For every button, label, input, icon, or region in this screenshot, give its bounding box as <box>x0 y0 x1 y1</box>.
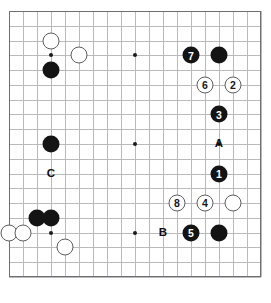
stone-white[interactable] <box>225 195 242 212</box>
stone-white[interactable] <box>15 224 32 241</box>
stone-move-number: 4 <box>198 196 213 211</box>
point-label-b[interactable]: B <box>159 227 167 239</box>
stone-move-number: 6 <box>198 77 213 92</box>
stone-white[interactable] <box>71 47 88 64</box>
stone-move-number: 8 <box>170 196 185 211</box>
stone-black-move-1[interactable]: 1 <box>211 165 228 182</box>
go-stones-layer: 76231845ABC <box>0 0 271 303</box>
stone-black[interactable] <box>211 224 228 241</box>
stone-white-move-8[interactable]: 8 <box>169 195 186 212</box>
stone-move-number: 5 <box>183 224 200 241</box>
stone-black[interactable] <box>43 62 60 79</box>
stone-white-move-2[interactable]: 2 <box>225 76 242 93</box>
point-label-c[interactable]: C <box>47 168 55 180</box>
stone-white-move-4[interactable]: 4 <box>197 195 214 212</box>
stone-black[interactable] <box>211 47 228 64</box>
stone-white[interactable] <box>43 32 60 49</box>
stone-black-move-5[interactable]: 5 <box>183 224 200 241</box>
point-label-a[interactable]: A <box>215 138 223 150</box>
stone-white-move-6[interactable]: 6 <box>197 76 214 93</box>
stone-move-number: 1 <box>211 165 228 182</box>
stone-move-number: 7 <box>183 47 200 64</box>
go-diagram: 76231845ABC <box>0 0 271 303</box>
stone-black-move-3[interactable]: 3 <box>211 106 228 123</box>
stone-white[interactable] <box>57 239 74 256</box>
stone-move-number: 3 <box>211 106 228 123</box>
stone-black-move-7[interactable]: 7 <box>183 47 200 64</box>
stone-move-number: 2 <box>226 77 241 92</box>
stone-black[interactable] <box>43 209 60 226</box>
stone-black[interactable] <box>43 136 60 153</box>
